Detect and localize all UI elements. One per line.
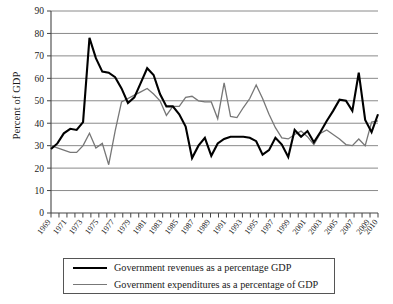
legend-line-revenues-icon xyxy=(73,267,107,269)
x-tick-label: 2001 xyxy=(291,218,308,236)
chart-legend: Government revenues as a percentage GDP … xyxy=(63,258,335,294)
y-tick-label: 80 xyxy=(35,29,45,39)
y-tick-label: 50 xyxy=(35,96,45,106)
y-tick-label: 90 xyxy=(35,6,45,16)
x-tick-label: 1987 xyxy=(179,218,196,236)
y-tick-label: 70 xyxy=(35,51,45,61)
y-tick-label: 60 xyxy=(35,74,45,84)
x-tick-label: 1969 xyxy=(35,218,52,236)
x-tick-label: 1999 xyxy=(275,218,292,236)
x-tick-group xyxy=(51,213,378,218)
x-tick-label: 2003 xyxy=(307,218,324,236)
gridlines-group xyxy=(51,11,378,191)
x-tick-label: 1991 xyxy=(211,218,228,236)
y-tick-group: 0102030405060708090 xyxy=(35,6,52,218)
legend-item-expenditures: Government expenditures as a percentage … xyxy=(64,276,334,293)
gdp-line-chart: Percent of GDP 0102030405060708090 19691… xyxy=(0,0,393,304)
series-line-expenditures xyxy=(51,83,378,165)
legend-item-revenues: Government revenues as a percentage GDP xyxy=(64,259,334,276)
x-tick-label: 1993 xyxy=(227,218,244,236)
y-tick-label: 30 xyxy=(35,141,45,151)
legend-line-expenditures-icon xyxy=(73,284,107,285)
y-tick-label: 0 xyxy=(39,208,44,218)
x-tick-label: 1973 xyxy=(67,218,84,236)
x-tick-label: 1975 xyxy=(83,218,100,236)
x-tick-label: 1981 xyxy=(131,218,148,236)
x-tick-label: 1997 xyxy=(259,218,276,236)
x-tick-label: 1989 xyxy=(195,218,212,236)
x-tick-label: 1979 xyxy=(115,218,132,236)
x-tick-label: 1977 xyxy=(99,218,116,236)
x-tick-label: 1995 xyxy=(243,218,260,236)
x-tick-label: 2005 xyxy=(323,218,340,236)
y-tick-label: 20 xyxy=(35,164,45,174)
x-tick-label-group: 1969197119731975197719791981198319851987… xyxy=(35,218,379,236)
x-tick-label: 1985 xyxy=(163,218,180,236)
legend-label-expenditures: Government expenditures as a percentage … xyxy=(114,279,318,290)
y-tick-label: 40 xyxy=(35,119,45,129)
legend-label-revenues: Government revenues as a percentage GDP xyxy=(114,262,291,273)
x-tick-label: 1983 xyxy=(147,218,164,236)
y-tick-label: 10 xyxy=(35,186,45,196)
x-tick-label: 1971 xyxy=(51,218,68,236)
x-tick-label: 2007 xyxy=(338,218,355,236)
plot-area: 0102030405060708090 19691971197319751977… xyxy=(0,0,393,250)
